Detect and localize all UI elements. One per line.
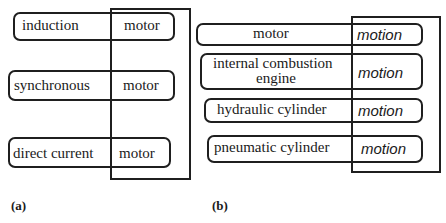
panel-b-row-4-prefix: pneumatic cylinder [214, 140, 351, 155]
panel-a-row-2-head: motor [123, 78, 159, 93]
panel-a-row-2-prefix: synchronous [14, 78, 90, 93]
panel-b-row-3-prefix: hydraulic cylinder [217, 102, 327, 117]
panel-b-row-1-prefix: motor [253, 26, 289, 41]
panel-b-row-3-head: motion [358, 103, 403, 118]
panel-b-row-4-head: motion [361, 141, 406, 156]
panel-b-row-2-head: motion [358, 65, 403, 80]
panel-a-row-3-prefix: direct current [13, 146, 93, 161]
panel-a-row-1-prefix: induction [22, 18, 79, 33]
panel-a-row-3-head: motor [119, 146, 155, 161]
panel-a-row-1-head: motor [124, 18, 160, 33]
panel-b-label: (b) [212, 198, 228, 214]
panel-b-row-1-head: motion [357, 27, 402, 42]
panel-b-row-2-prefix-line2: engine [256, 71, 296, 86]
panel-a-label: (a) [11, 198, 26, 214]
panel-b-row-2-prefix-line1: internal combustion [213, 56, 350, 71]
